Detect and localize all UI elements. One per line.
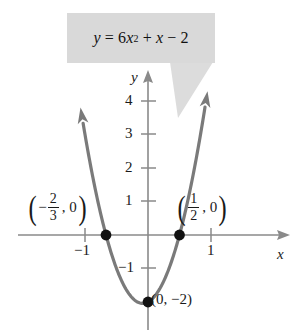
- dot-right-x-intercept: [174, 230, 185, 241]
- second-coordinate: 0: [69, 200, 77, 215]
- y-tick-label-3: 3: [125, 126, 133, 141]
- y-tick-label-2: 2: [125, 160, 133, 175]
- fraction-numerator: 1: [188, 192, 199, 206]
- fraction-denominator: 3: [48, 209, 59, 223]
- y-axis-label: y: [131, 70, 138, 85]
- comma: ,: [62, 200, 70, 215]
- equation-coefficient: 6: [118, 29, 126, 47]
- equation-text: y = 6 x 2 + x − 2: [67, 13, 215, 63]
- equation-exponent: 2: [133, 33, 138, 44]
- x-tick-label-1: 1: [207, 243, 215, 258]
- equation-constant: 2: [180, 29, 188, 47]
- comma: ,: [202, 200, 210, 215]
- x-axis-label: x: [277, 247, 284, 262]
- x-axis: [18, 230, 290, 240]
- equation-callout-box: y = 6 x 2 + x − 2: [67, 13, 215, 63]
- second-coordinate: 0: [210, 200, 218, 215]
- paren-close: ): [78, 194, 86, 222]
- fraction-one-half: 1 2: [188, 192, 199, 224]
- dot-left-x-intercept: [101, 230, 112, 241]
- equation-lhs: y: [93, 29, 100, 47]
- y-tick-label-4: 4: [125, 93, 133, 108]
- equation-equals: =: [105, 29, 114, 47]
- paren-open: (: [178, 194, 186, 222]
- y-tick-label-neg1: −1: [118, 260, 134, 275]
- parabola-figure: y = 6 x 2 + x − 2 y x 4 3 2 1 −1 −1 1 ( …: [0, 0, 300, 336]
- label-left-x-intercept: ( − 2 3 , 0 ): [27, 192, 88, 224]
- paren-close: ): [219, 194, 227, 222]
- fraction-numerator: 2: [48, 192, 59, 206]
- label-right-x-intercept: ( 1 2 , 0 ): [176, 192, 229, 224]
- minus-sign: −: [38, 200, 46, 215]
- equation-minus: −: [167, 29, 176, 47]
- y-tick-label-1: 1: [125, 193, 133, 208]
- equation-linear-term: x: [156, 29, 163, 47]
- label-y-intercept: (0, −2): [151, 292, 192, 307]
- callout-tail: [170, 62, 213, 118]
- equation-plus: +: [143, 29, 152, 47]
- fraction-denominator: 2: [188, 209, 199, 223]
- equation-variable: x: [126, 29, 133, 47]
- fraction-two-thirds: 2 3: [48, 192, 59, 224]
- paren-open: (: [29, 194, 37, 222]
- x-tick-label-neg1: −1: [74, 243, 90, 258]
